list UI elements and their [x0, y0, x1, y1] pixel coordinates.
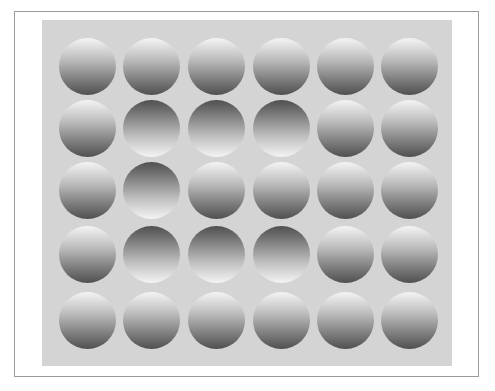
shaded-disc-up [188, 38, 245, 95]
shaded-disc-down [188, 100, 245, 157]
shaded-disc-up [317, 292, 374, 349]
shaded-disc-up [253, 292, 310, 349]
shaded-disc-up [188, 162, 245, 219]
shaded-disc-up [59, 226, 116, 283]
shaded-disc-up [59, 162, 116, 219]
shaded-disc-up [381, 162, 438, 219]
shaded-disc-down [188, 226, 245, 283]
shaded-disc-down [123, 162, 180, 219]
shaded-disc-up [59, 100, 116, 157]
shaded-disc-down [253, 226, 310, 283]
shaded-disc-up [381, 292, 438, 349]
shaded-disc-up [317, 38, 374, 95]
shaded-disc-up [381, 100, 438, 157]
shaded-disc-up [381, 38, 438, 95]
shaded-disc-up [317, 226, 374, 283]
shaded-disc-up [59, 38, 116, 95]
shaded-disc-up [317, 162, 374, 219]
shaded-disc-up [188, 292, 245, 349]
shaded-disc-up [123, 38, 180, 95]
shaded-disc-down [253, 100, 310, 157]
shaded-disc-up [123, 292, 180, 349]
shaded-disc-up [317, 100, 374, 157]
shaded-disc-up [381, 226, 438, 283]
shaded-disc-down [123, 100, 180, 157]
shaded-disc-up [253, 38, 310, 95]
shaded-disc-up [253, 162, 310, 219]
shaded-disc-down [123, 226, 180, 283]
shaded-disc-up [59, 292, 116, 349]
